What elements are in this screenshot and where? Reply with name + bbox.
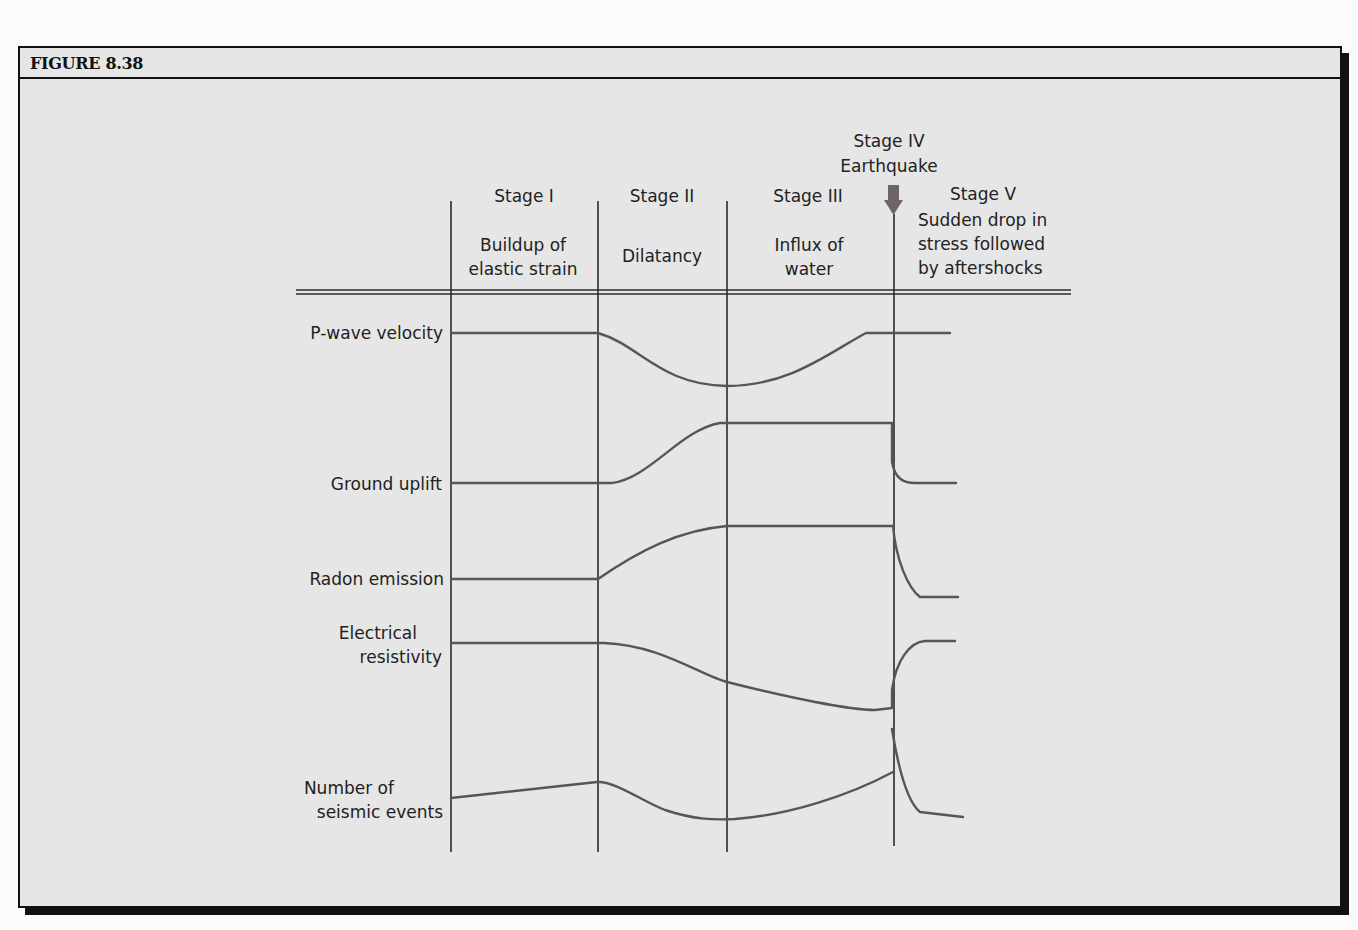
stage-3-desc-line1: Influx of (774, 235, 844, 255)
row-label-resistivity-line2: resistivity (360, 647, 442, 667)
curve-aftershocks (892, 729, 963, 817)
stage-1-desc-line2: elastic strain (468, 259, 577, 279)
row-label-radon: Radon emission (309, 569, 444, 589)
stage-5-description: Sudden drop in stress followed by afters… (918, 210, 1047, 278)
stage-4-title: Stage IV (853, 131, 925, 151)
stage-3-desc-line2: water (785, 259, 833, 279)
curve-seismic-events (451, 772, 893, 819)
row-label-ground-uplift: Ground uplift (331, 474, 443, 494)
row-label-seismic-line1: Number of (304, 778, 395, 798)
stage-2-desc: Dilatancy (622, 246, 702, 266)
stage-1-desc-line1: Buildup of (480, 235, 567, 255)
header-rule (296, 290, 1071, 294)
stage-1-title: Stage I (494, 186, 554, 206)
down-arrow-icon (884, 185, 903, 215)
row-label-p-wave: P-wave velocity (310, 323, 443, 343)
stage-5-desc-line3: by aftershocks (918, 258, 1043, 278)
curve-p-wave-velocity (451, 333, 950, 386)
stage-3-title: Stage III (773, 186, 843, 206)
curve-radon-emission (451, 526, 958, 597)
stage-4-desc: Earthquake (840, 156, 937, 176)
curve-ground-uplift (451, 423, 956, 483)
row-labels: P-wave velocity Ground uplift Radon emis… (304, 323, 444, 822)
curve-electrical-resistivity (451, 641, 955, 710)
row-label-resistivity-line1: Electrical (339, 623, 417, 643)
stage-headers: Stage I Buildup of elastic strain Stage … (468, 131, 1016, 279)
curves (451, 333, 963, 819)
earthquake-precursor-diagram: Stage I Buildup of elastic strain Stage … (0, 0, 1358, 930)
row-label-seismic-line2: seismic events (317, 802, 443, 822)
stage-5-title: Stage V (950, 184, 1017, 204)
stage-5-desc-line2: stress followed (918, 234, 1045, 254)
stage-2-title: Stage II (630, 186, 695, 206)
stage-5-desc-line1: Sudden drop in (918, 210, 1047, 230)
